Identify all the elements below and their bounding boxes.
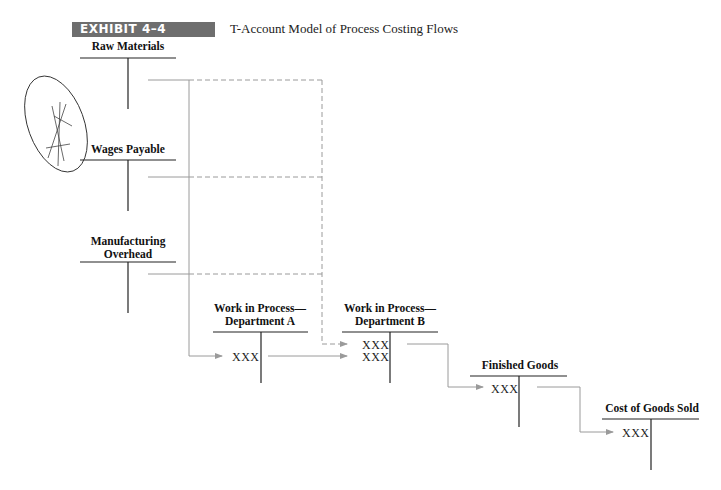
dashed-flows [189,80,347,344]
solid-flows [148,80,613,432]
t-account-diagram [0,0,721,490]
t-accounts [80,58,699,470]
handwritten-scribble-annotation [14,66,104,181]
